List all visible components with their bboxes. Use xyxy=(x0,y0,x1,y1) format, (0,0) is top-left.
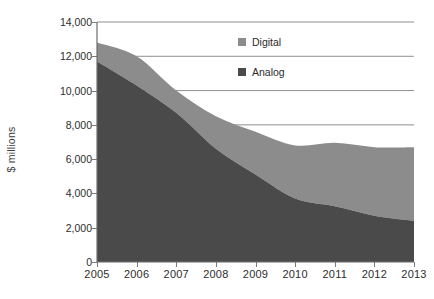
x-tick-mark xyxy=(176,262,177,267)
area-chart: $ millions 14,000 12,000 10,000 8,000 6,… xyxy=(0,0,434,299)
x-tick-mark xyxy=(97,262,98,267)
legend-label-digital: Digital xyxy=(252,36,281,48)
x-tick-label: 2006 xyxy=(124,268,149,280)
x-tick-mark xyxy=(137,262,138,267)
legend-label-analog: Analog xyxy=(252,66,285,78)
x-tick-label: 2012 xyxy=(362,268,387,280)
x-tick-mark xyxy=(295,262,296,267)
x-tick-label: 2007 xyxy=(164,268,189,280)
legend-item-analog: Analog xyxy=(238,66,285,78)
legend-swatch-analog xyxy=(238,68,246,76)
x-tick-mark xyxy=(374,262,375,267)
x-tick-mark xyxy=(216,262,217,267)
x-tick-label: 2010 xyxy=(282,268,307,280)
legend-item-digital: Digital xyxy=(238,36,281,48)
x-tick-mark xyxy=(256,262,257,267)
x-tick-label: 2013 xyxy=(401,268,426,280)
x-tick-label: 2005 xyxy=(84,268,109,280)
x-tick-label: 2008 xyxy=(203,268,228,280)
legend-swatch-digital xyxy=(238,38,246,46)
plot-area xyxy=(0,0,434,299)
x-tick-mark xyxy=(335,262,336,267)
x-tick-label: 2011 xyxy=(323,268,347,280)
x-tick-mark xyxy=(414,262,415,267)
x-tick-label: 2009 xyxy=(243,268,268,280)
